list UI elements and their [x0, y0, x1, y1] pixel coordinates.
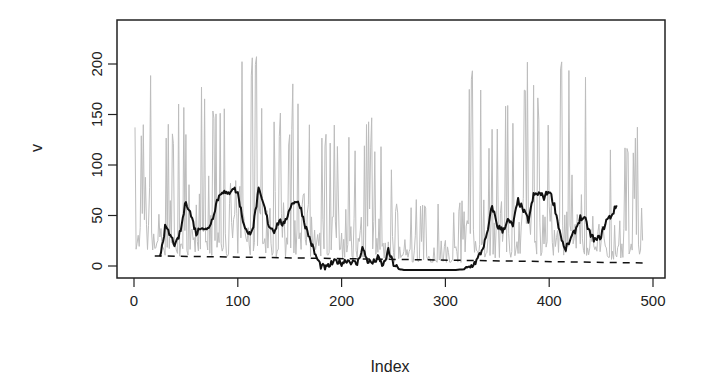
x-tick-label: 300	[433, 292, 458, 309]
y-axis: 050100150200	[88, 51, 117, 270]
x-tick-label: 200	[329, 292, 354, 309]
chart: 0100200300400500 050100150200 Index v	[0, 0, 703, 392]
x-tick-label: 0	[130, 292, 138, 309]
x-tick-label: 100	[225, 292, 250, 309]
plot-area	[135, 57, 643, 270]
y-tick-label: 150	[88, 102, 105, 127]
y-tick-label: 200	[88, 51, 105, 76]
y-tick-label: 50	[88, 207, 105, 224]
y-tick-label: 100	[88, 152, 105, 177]
y-axis-title: v	[28, 144, 45, 152]
y-tick-label: 0	[88, 262, 105, 270]
x-tick-label: 400	[537, 292, 562, 309]
x-axis: 0100200300400500	[130, 278, 666, 309]
x-tick-label: 500	[640, 292, 665, 309]
raw-series-line	[135, 57, 643, 263]
x-axis-title: Index	[370, 358, 409, 375]
rolling-mean-line	[160, 188, 617, 271]
